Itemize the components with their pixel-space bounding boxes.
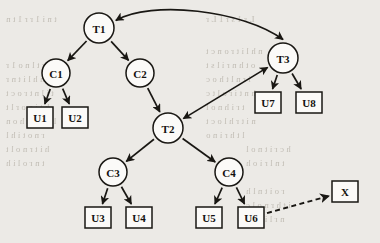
node-label-c1: C1 [49,68,62,80]
node-layer: T1T2T3C1C2C3C4U1U2U3U4U5U6U7U8X [27,13,358,228]
node-t2[interactable]: T2 [153,113,183,143]
edge-c2-t2 [148,88,160,112]
edge-c3-u3 [102,188,107,204]
node-c1[interactable]: C1 [42,59,70,87]
node-u8[interactable]: U8 [296,92,322,113]
edge-c3-u4 [121,187,131,204]
edge-t2-c3 [126,139,154,161]
node-t3[interactable]: T3 [268,43,298,73]
node-label-c2: C2 [133,68,147,80]
edge-t3-u7 [273,75,278,89]
node-label-t2: T2 [162,123,175,135]
edge-t1-c2 [111,41,128,60]
edge-c4-u5 [215,188,222,204]
node-c2[interactable]: C2 [126,59,154,87]
node-x[interactable]: X [332,181,358,202]
node-label-x: X [341,186,349,198]
edge-t1-c1 [68,41,87,61]
edge-t3-u8 [292,74,301,89]
node-label-u6: U6 [244,212,258,224]
node-label-u1: U1 [33,112,46,124]
edge-u6-x [267,196,329,213]
node-label-u7: U7 [261,97,275,109]
figure-canvas: t n i 1 r r 1 t nr t l n o 1 rn t h h l … [0,0,380,243]
node-label-u3: U3 [91,212,105,224]
node-label-u4: U4 [132,212,146,224]
node-label-t3: T3 [277,53,290,65]
edge-c1-u1 [45,89,50,104]
node-c4[interactable]: C4 [215,158,243,186]
edge-c4-u6 [236,187,244,204]
node-u4[interactable]: U4 [126,207,152,228]
node-u3[interactable]: U3 [85,207,111,228]
edge-c1-u2 [63,89,70,104]
node-u7[interactable]: U7 [255,92,281,113]
edge-t3-t1 [116,10,283,40]
edge-t2-c4 [183,139,216,163]
node-label-t1: T1 [93,23,106,35]
graph-svg: T1T2T3C1C2C3C4U1U2U3U4U5U6U7U8X [0,0,380,243]
node-t1[interactable]: T1 [84,13,114,43]
node-u1[interactable]: U1 [27,107,53,128]
node-label-u5: U5 [202,212,216,224]
node-c3[interactable]: C3 [99,158,127,186]
node-label-u8: U8 [302,97,316,109]
node-label-u2: U2 [68,112,82,124]
node-label-c3: C3 [106,167,120,179]
node-u6[interactable]: U6 [238,207,264,228]
node-label-c4: C4 [222,167,236,179]
node-u2[interactable]: U2 [62,107,88,128]
node-u5[interactable]: U5 [196,207,222,228]
